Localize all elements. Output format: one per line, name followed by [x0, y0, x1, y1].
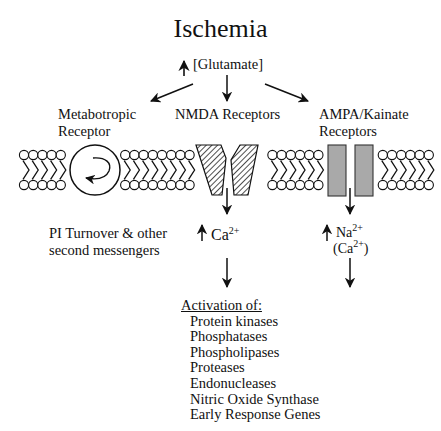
activation-list-item: Early Response Genes	[190, 407, 320, 423]
sodium-ion-label: Na2+ (Ca2+)	[336, 225, 369, 257]
metabotropic-receptor-label: Metabotropic Receptor	[58, 106, 136, 139]
activation-list: Protein kinasesPhosphatasesPhospholipase…	[181, 314, 320, 423]
activation-list-item: Phosphatases	[190, 329, 320, 345]
activation-heading: Activation of:	[181, 297, 320, 314]
glutamate-to-metabotropic-arrow-icon	[151, 84, 193, 101]
pi-turnover-outcome: PI Turnover & other second messengers	[49, 225, 167, 258]
activation-list-item: Phospholipases	[190, 345, 320, 361]
activation-block: Activation of: Protein kinasesPhosphatas…	[181, 297, 320, 423]
activation-list-item: Nitric Oxide Synthase	[190, 392, 320, 408]
calcium-ion-label: Ca2+	[211, 226, 239, 244]
activation-list-item: Endonucleases	[190, 376, 320, 392]
glutamate-to-ampa-arrow-icon	[265, 84, 308, 101]
glutamate-label: [Glutamate]	[193, 56, 263, 73]
nmda-receptor-label: NMDA Receptors	[175, 106, 280, 123]
metabotropic-receptor-icon	[70, 145, 120, 195]
diagram-title: Ischemia	[0, 14, 441, 44]
activation-list-item: Protein kinases	[190, 314, 320, 330]
ampa-kainate-receptor-label: AMPA/Kainate Receptors	[319, 106, 409, 139]
nmda-receptor-channel-icon	[196, 145, 258, 195]
activation-list-item: Proteases	[190, 360, 320, 376]
